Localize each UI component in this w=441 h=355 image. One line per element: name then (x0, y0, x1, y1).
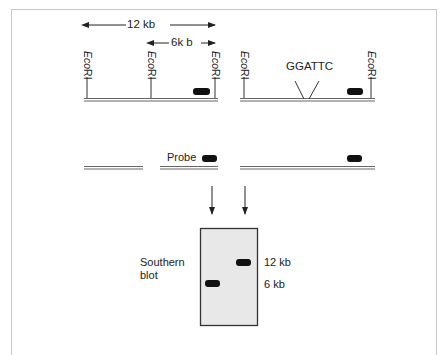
ecori-site-1: EcoRI (83, 51, 93, 80)
southern-blot-membrane (201, 229, 258, 326)
normal-allele-dna (84, 77, 218, 101)
probe-site-normal (193, 88, 210, 95)
band-label-12kb: 12 kb (264, 257, 291, 268)
band-12kb (236, 259, 251, 266)
ecori-site-3: EcoRI (211, 51, 221, 80)
probe-bound-12kb (347, 155, 362, 162)
ecori-site-4: EcoRI (240, 51, 250, 80)
probe-site-mutant (347, 88, 363, 95)
label-6kb: 6k b (171, 37, 193, 48)
probe-label: Probe (167, 152, 196, 163)
probe-bound-6kb (202, 155, 217, 162)
mutant-allele-dna (240, 77, 375, 101)
ecori-site-5: EcoRI (367, 51, 377, 80)
band-6kb (205, 280, 220, 287)
southern-blot-label-line2: blot (140, 270, 158, 281)
lane-arrows (212, 186, 245, 214)
band-label-6kb: 6 kb (264, 279, 285, 290)
digested-fragments (84, 155, 375, 169)
ecori-site-2: EcoRI (147, 51, 157, 80)
mutation-site-label: GGATTC (286, 61, 333, 72)
southern-blot-label-line1: Southern (140, 257, 185, 268)
label-12kb: 12 kb (127, 19, 155, 30)
